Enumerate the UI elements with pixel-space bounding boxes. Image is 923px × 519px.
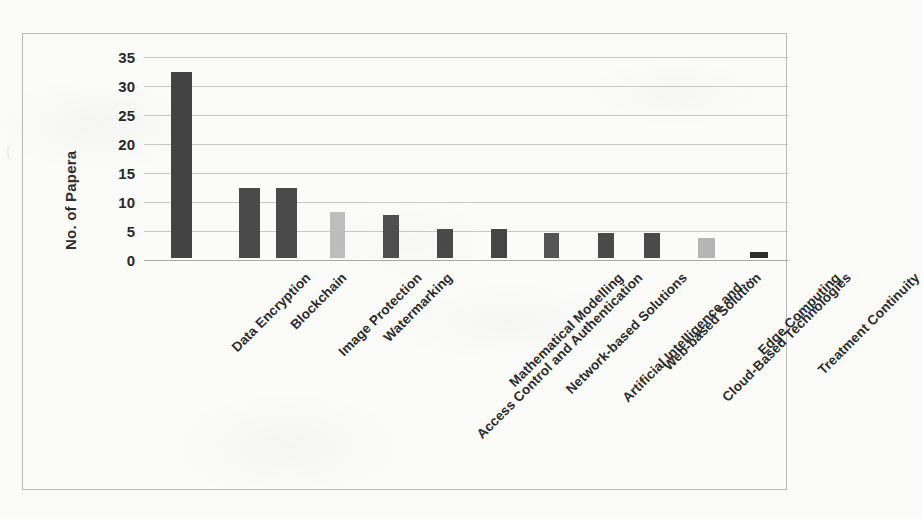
bleed-through-artifact-left: ( [6, 140, 12, 162]
x-tick-label-10: Edge Computing [755, 270, 843, 358]
x-tick-label-5: Mathematical Modelling [506, 270, 626, 390]
x-tick-label-4: Access Control and Authentication [474, 270, 646, 442]
plot-area: 35302520151050 No. of Papera Data Encryp… [23, 34, 786, 489]
chart-frame: 35302520151050 No. of Papera Data Encryp… [22, 33, 787, 490]
x-axis-category-labels: Data EncryptionBlockchainImage Protectio… [23, 34, 786, 489]
